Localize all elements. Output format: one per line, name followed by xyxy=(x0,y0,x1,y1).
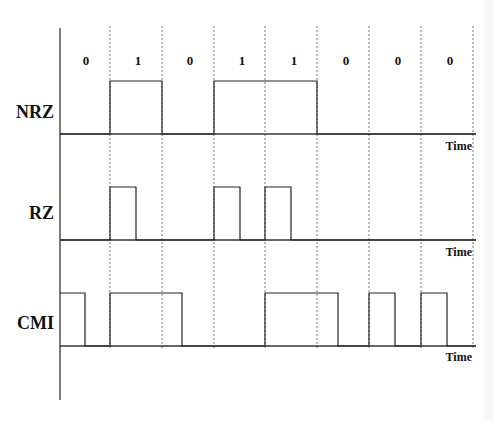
signal-rows: NRZTimeRZTimeCMITime xyxy=(16,81,476,364)
page-edge-shadow xyxy=(479,0,493,421)
bit-sequence-labels: 01011000 xyxy=(83,53,454,68)
signal-row-rz: RZTime xyxy=(29,187,476,259)
bit-label: 0 xyxy=(343,53,350,68)
nrz-waveform xyxy=(60,81,476,134)
bit-label: 1 xyxy=(135,53,142,68)
signal-name: RZ xyxy=(29,203,54,223)
bit-label: 0 xyxy=(395,53,402,68)
time-label: Time xyxy=(446,350,473,364)
time-label: Time xyxy=(446,245,473,259)
bit-label: 1 xyxy=(291,53,298,68)
time-label: Time xyxy=(446,139,473,153)
bit-label: 0 xyxy=(83,53,90,68)
signal-row-cmi: CMITime xyxy=(17,293,476,364)
signal-name: NRZ xyxy=(16,102,54,122)
bit-label: 1 xyxy=(239,53,246,68)
line-coding-diagram: 01011000 NRZTimeRZTimeCMITime xyxy=(0,0,493,421)
rz-waveform xyxy=(60,187,476,240)
bit-label: 0 xyxy=(187,53,194,68)
signal-row-nrz: NRZTime xyxy=(16,81,476,153)
signal-name: CMI xyxy=(17,313,54,333)
bit-label: 0 xyxy=(447,53,454,68)
cmi-waveform xyxy=(60,293,476,346)
